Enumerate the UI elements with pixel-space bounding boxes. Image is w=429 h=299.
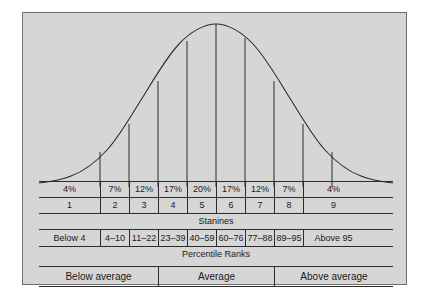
bell-curve-area [39, 21, 393, 187]
percent-cell: 7% [100, 182, 129, 197]
percentile-cell: 77–88 [245, 230, 274, 246]
percentile-cell: 11–22 [129, 230, 158, 246]
band-cell-average: Average [158, 267, 274, 286]
stanine-cell: 7 [245, 198, 274, 213]
stanine-cell: 4 [158, 198, 187, 213]
stanine-cell: 8 [274, 198, 303, 213]
percent-cell: 20% [187, 182, 216, 197]
stanine-cell: 6 [216, 198, 245, 213]
percent-cell: 7% [274, 182, 303, 197]
percent-cell: 4% [39, 182, 100, 197]
percent-cell: 12% [129, 182, 158, 197]
performance-band-row: Below average Average Above average [39, 266, 393, 287]
band-cell-below-average: Below average [39, 267, 158, 286]
percentile-ranks-axis-label: Percentile Ranks [39, 246, 393, 262]
percentile-cell: Below 4 [39, 230, 100, 246]
stanine-number-row: 1 2 3 4 5 6 7 8 9 [39, 197, 393, 213]
percentile-cell: 23–39 [158, 230, 187, 246]
percentile-cell: 89–95 [274, 230, 303, 246]
percent-cell: 4% [303, 182, 363, 197]
stanine-cell: 9 [303, 198, 363, 213]
percent-row: 4% 7% 12% 17% 20% 17% 12% 7% 4% [39, 181, 393, 197]
stanine-table: 4% 7% 12% 17% 20% 17% 12% 7% 4% 1 2 3 4 … [39, 181, 393, 287]
percentile-cell: 4–10 [100, 230, 129, 246]
percentile-cell: 60–76 [216, 230, 245, 246]
figure-frame: 4% 7% 12% 17% 20% 17% 12% 7% 4% 1 2 3 4 … [22, 12, 407, 285]
percent-cell: 12% [245, 182, 274, 197]
percent-cell: 17% [216, 182, 245, 197]
stanines-axis-label: Stanines [39, 213, 393, 229]
percentile-cell: 40–59 [187, 230, 216, 246]
stanine-cell: 3 [129, 198, 158, 213]
band-cell-above-average: Above average [274, 267, 393, 286]
percent-cell: 17% [158, 182, 187, 197]
stanine-cell: 2 [100, 198, 129, 213]
normal-distribution-curve [39, 21, 393, 187]
stanine-cell: 5 [187, 198, 216, 213]
percentile-cell: Above 95 [303, 230, 363, 246]
percentile-rank-row: Below 4 4–10 11–22 23–39 40–59 60–76 77–… [39, 229, 393, 246]
stanine-cell: 1 [39, 198, 100, 213]
